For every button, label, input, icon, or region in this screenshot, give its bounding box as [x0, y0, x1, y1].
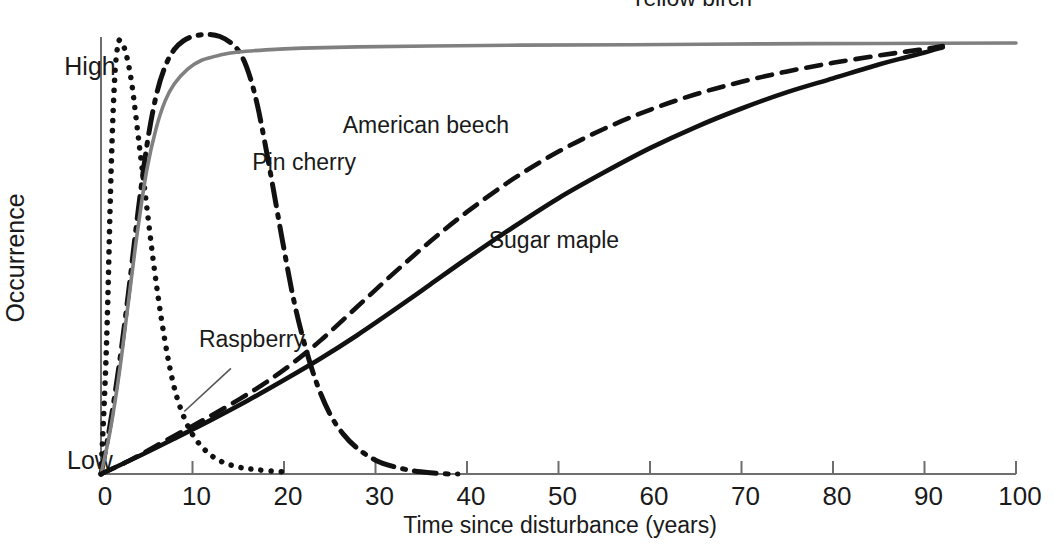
series-label-yellow-birch: Yellow birch: [630, 0, 752, 11]
x-axis-tick-labels: 0102030405060708090100: [98, 481, 1042, 511]
series-curve-pin-cherry: [101, 34, 458, 474]
x-axis-title: Time since disturbance (years): [403, 512, 717, 538]
axes-group: [101, 37, 1016, 474]
x-axis-tick-label: 80: [823, 481, 852, 511]
series-curve-sugar-maple: [101, 47, 943, 474]
x-axis-tick-label: 20: [274, 481, 303, 511]
x-axis-tick-label: 70: [731, 481, 760, 511]
series-label-pin-cherry: Pin cherry: [252, 149, 356, 175]
chart-canvas: 0102030405060708090100 High Low Occurren…: [0, 0, 1054, 551]
succession-chart: 0102030405060708090100 High Low Occurren…: [0, 0, 1054, 551]
series-labels: RaspberryPin cherryYellow birchAmerican …: [184, 0, 752, 412]
x-axis-tick-label: 40: [457, 481, 486, 511]
x-axis-tick-label: 100: [998, 481, 1041, 511]
x-axis-tick-label: 50: [548, 481, 577, 511]
series-curve-yellow-birch: [101, 43, 1016, 474]
series-curves: [101, 34, 1016, 474]
x-axis-tick-label: 60: [640, 481, 669, 511]
x-axis-tick-label: 10: [182, 481, 211, 511]
leader-line-raspberry: [184, 368, 231, 411]
x-axis-tick-label: 90: [914, 481, 943, 511]
series-label-american-beech: American beech: [343, 112, 509, 138]
x-axis-tick-label: 30: [365, 481, 394, 511]
series-label-sugar-maple: Sugar maple: [489, 227, 619, 253]
y-axis-label-high: High: [64, 52, 115, 80]
x-axis-tick-label: 0: [98, 481, 112, 511]
y-axis-title: Occurrence: [1, 193, 29, 322]
series-label-raspberry: Raspberry: [199, 326, 306, 352]
